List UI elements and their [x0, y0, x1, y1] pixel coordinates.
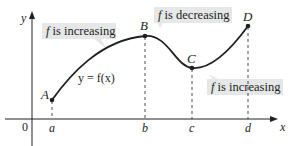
point-c-dot	[190, 66, 195, 71]
callout-decreasing: f is decreasing	[154, 7, 232, 28]
function-diagram: f is increasing f is decreasing f is inc…	[0, 0, 303, 146]
tick-label-d: d	[245, 121, 252, 135]
point-d-dot	[246, 24, 251, 29]
callout-increasing-2: f is increasing	[207, 74, 283, 95]
callout-increasing-1-text: is increasing	[49, 24, 116, 38]
x-axis-arrow-icon	[270, 116, 278, 122]
point-d-label: D	[242, 9, 253, 24]
svg-text:f is increasing: f is increasing	[46, 24, 116, 38]
point-a-dot	[50, 98, 55, 103]
point-b-label: B	[140, 18, 148, 33]
point-b-dot	[143, 34, 148, 39]
callout-decreasing-text: is decreasing	[161, 8, 230, 22]
tick-label-b: b	[142, 121, 148, 135]
callout-increasing-1: f is increasing	[42, 23, 116, 50]
y-axis	[29, 11, 35, 146]
svg-text:f is increasing: f is increasing	[211, 80, 281, 94]
y-axis-label: y	[20, 11, 27, 25]
tick-label-c: c	[189, 121, 195, 135]
point-c-label: C	[187, 51, 196, 66]
point-a-label: A	[40, 87, 49, 102]
origin-label: 0	[22, 120, 28, 134]
tick-label-a: a	[49, 121, 55, 135]
curve-label: y = f(x)	[78, 71, 115, 85]
x-axis-label: x	[279, 120, 286, 134]
y-axis-arrow-icon	[29, 11, 35, 19]
svg-text:f is decreasing: f is decreasing	[158, 8, 230, 22]
